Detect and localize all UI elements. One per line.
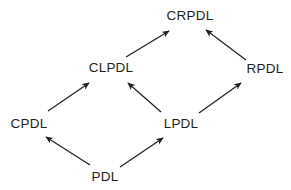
node-label-lpdl: LPDL — [164, 117, 199, 131]
edge-arrow-rpdl-to-crpdl — [206, 30, 246, 60]
edge-arrow-clpdl-to-crpdl — [126, 31, 169, 57]
edge-arrow-lpdl-to-clpdl — [128, 83, 161, 112]
edge-arrow-cpdl-to-clpdl — [48, 83, 89, 111]
node-label-cpdl: CPDL — [11, 117, 48, 131]
edge-arrow-pdl-to-lpdl — [120, 138, 163, 167]
edge-arrow-lpdl-to-rpdl — [199, 83, 241, 113]
pdl-lattice-diagram: CRPDLCLPDLRPDLCPDLLPDLPDL — [0, 0, 291, 190]
node-label-pdl: PDL — [92, 170, 119, 184]
node-label-rpdl: RPDL — [247, 62, 284, 76]
edge-layer — [0, 0, 291, 190]
edge-arrow-pdl-to-cpdl — [46, 137, 90, 165]
node-label-crpdl: CRPDL — [167, 9, 214, 23]
node-label-clpdl: CLPDL — [89, 61, 134, 75]
